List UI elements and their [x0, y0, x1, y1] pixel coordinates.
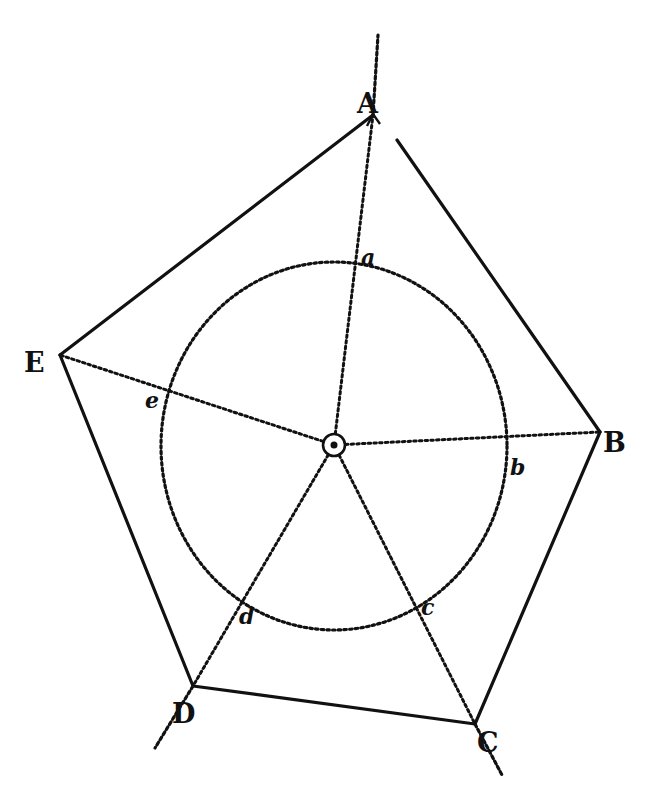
- radius-to-e: [60, 355, 334, 445]
- center-mark: [323, 434, 345, 456]
- side-e-a: [60, 115, 373, 355]
- radius-to-a: [334, 115, 373, 445]
- side-b-c: [475, 432, 600, 724]
- side-d-e: [60, 355, 193, 686]
- dotted-radii: [60, 115, 600, 724]
- tangent-label-d: d: [239, 603, 254, 629]
- radius-to-c: [334, 445, 475, 724]
- vertex-labels: ABCDE: [24, 88, 626, 758]
- radius-to-b: [334, 432, 600, 445]
- tangent-label-c: c: [421, 594, 435, 620]
- diagram-canvas: ABCDE abcde: [0, 0, 654, 802]
- tangent-label-b: b: [510, 454, 525, 480]
- vertex-label-d: D: [172, 698, 195, 729]
- pentagon-diagram: ABCDE abcde: [0, 0, 654, 802]
- vertex-label-c: C: [477, 727, 499, 758]
- vertex-label-a: A: [356, 88, 379, 119]
- vertex-label-b: B: [603, 427, 626, 458]
- tangent-label-e: e: [145, 387, 159, 413]
- center-dot-icon: [331, 442, 338, 449]
- vertex-label-e: E: [24, 347, 45, 378]
- tangent-label-a: a: [361, 244, 375, 270]
- side-c-d: [193, 686, 475, 724]
- pentagon-sides: [60, 115, 600, 724]
- radius-to-d: [193, 445, 334, 686]
